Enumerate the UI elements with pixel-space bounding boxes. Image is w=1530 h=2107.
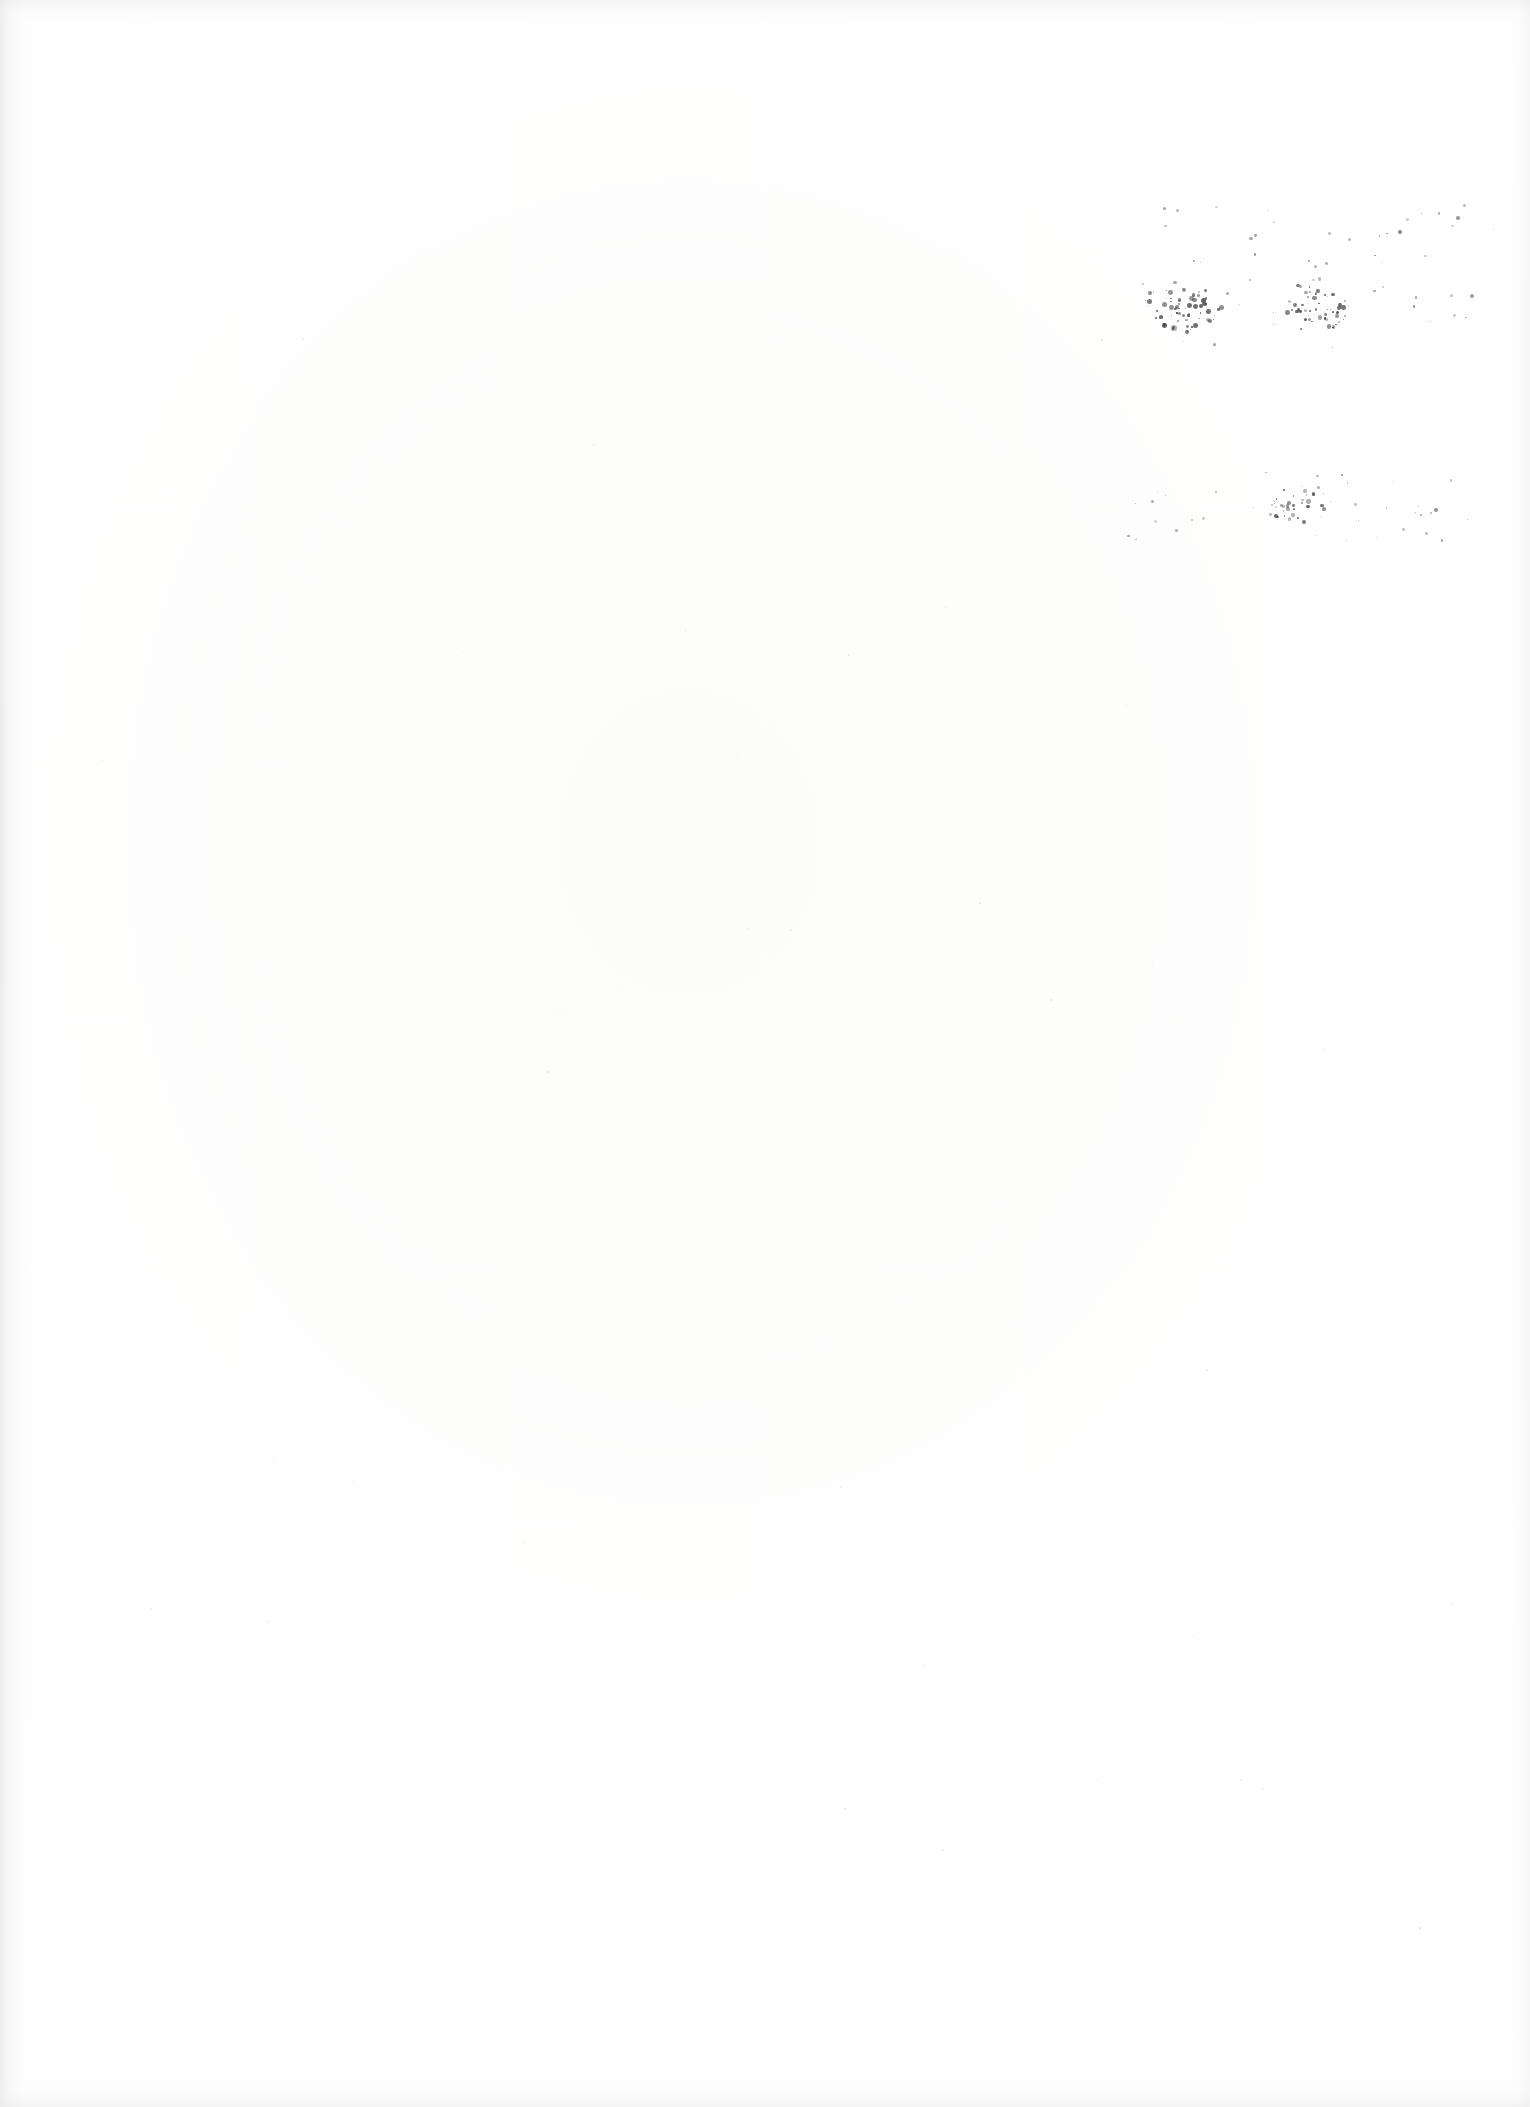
paper-background (0, 0, 1530, 2107)
scanned-page (0, 0, 1530, 2107)
